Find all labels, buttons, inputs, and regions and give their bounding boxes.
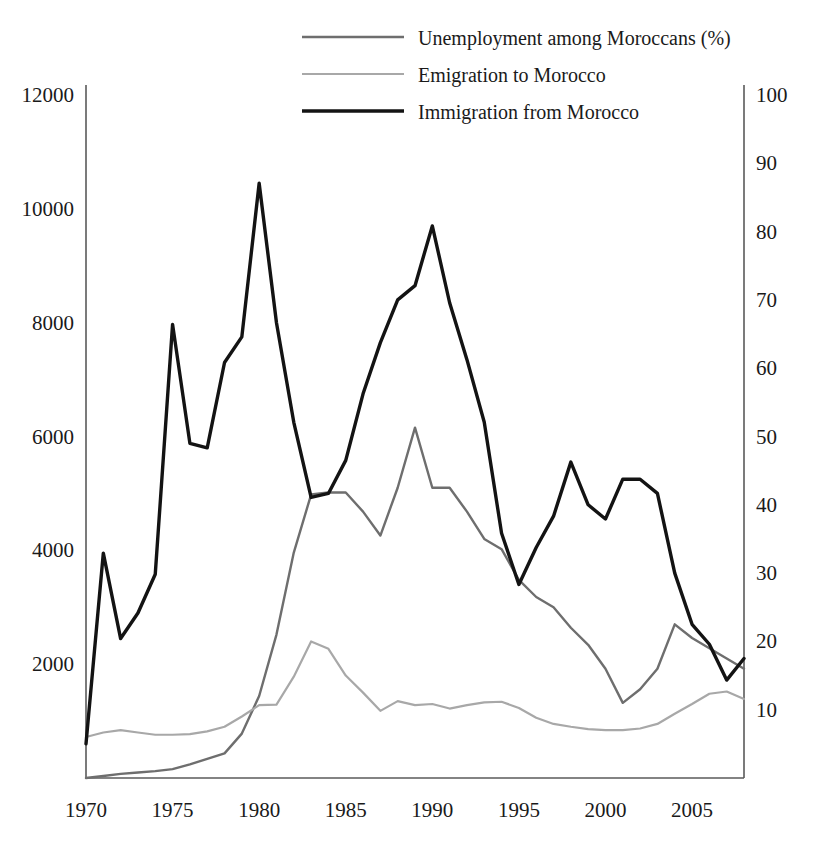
legend-label-1: Emigration to Morocco <box>418 64 606 87</box>
x-axis-tick-label: 2005 <box>671 798 713 822</box>
series-line-emigration-to-morocco <box>86 641 744 737</box>
chart-figure: Unemployment among Moroccans (%)Emigrati… <box>0 0 824 841</box>
series-line-immigration-from-morocco <box>86 183 744 744</box>
y2-axis-tick-label: 50 <box>756 425 777 449</box>
x-axis-tick-label: 1985 <box>325 798 367 822</box>
y2-axis-tick-label: 30 <box>756 561 777 585</box>
y2-axis-tick-label: 40 <box>756 493 777 517</box>
y-axis-tick-label: 8000 <box>32 311 74 335</box>
tick-labels: 2000400060008000100001200010203040506070… <box>22 83 788 822</box>
y2-axis-tick-label: 60 <box>756 356 777 380</box>
series-line-unemployment-among-moroccans <box>86 428 744 778</box>
x-axis-tick-label: 1990 <box>411 798 453 822</box>
y2-axis-tick-label: 70 <box>756 288 777 312</box>
y2-axis-tick-label: 10 <box>756 698 777 722</box>
x-axis-tick-label: 1975 <box>152 798 194 822</box>
series-lines <box>86 183 744 778</box>
x-axis-tick-label: 1970 <box>65 798 107 822</box>
legend-label-0: Unemployment among Moroccans (%) <box>418 27 731 50</box>
y-axis-tick-label: 12000 <box>22 83 75 107</box>
x-axis-tick-label: 1980 <box>238 798 280 822</box>
x-axis-tick-label: 2000 <box>584 798 626 822</box>
x-axis-tick-label: 1995 <box>498 798 540 822</box>
y-axis-tick-label: 4000 <box>32 538 74 562</box>
y2-axis-tick-label: 20 <box>756 629 777 653</box>
y-axis-tick-label: 2000 <box>32 652 74 676</box>
y-axis-tick-label: 10000 <box>22 197 75 221</box>
y2-axis-tick-label: 90 <box>756 151 777 175</box>
y2-axis-tick-label: 100 <box>756 83 788 107</box>
legend-label-2: Immigration from Morocco <box>418 101 639 124</box>
legend: Unemployment among Moroccans (%)Emigrati… <box>302 27 731 124</box>
y2-axis-tick-label: 80 <box>756 220 777 244</box>
y-axis-tick-label: 6000 <box>32 425 74 449</box>
line-chart: Unemployment among Moroccans (%)Emigrati… <box>0 0 824 841</box>
